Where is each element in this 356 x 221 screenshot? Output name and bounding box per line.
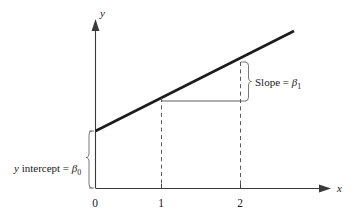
- intercept-label: y intercept = β0: [13, 162, 81, 177]
- slope-label-subscript: 1: [297, 82, 301, 91]
- x-axis-ticks: 0 1 2: [92, 184, 243, 209]
- x-axis-label: x: [336, 182, 342, 194]
- y-axis-label: y: [99, 7, 105, 19]
- intercept-brace-path: [86, 131, 92, 188]
- intercept-label-middle: intercept =: [19, 162, 72, 174]
- slope-label: Slope = β1: [255, 76, 301, 91]
- x-axis: x: [96, 182, 343, 194]
- tick-label-0: 0: [92, 197, 98, 209]
- intercept-label-subscript: 0: [77, 168, 81, 177]
- y-axis: y: [92, 7, 105, 188]
- slope-brace-path: [246, 62, 252, 101]
- figure-canvas: y x 0 1 2 Slope = β1: [0, 0, 356, 221]
- intercept-brace: [86, 131, 94, 188]
- x-axis-arrow-icon: [319, 185, 331, 193]
- regression-figure: y x 0 1 2 Slope = β1: [0, 0, 356, 221]
- slope-label-prefix: Slope =: [255, 76, 292, 88]
- y-axis-arrow-icon: [92, 19, 100, 31]
- tick-label-1: 1: [158, 197, 164, 209]
- tick-label-2: 2: [237, 197, 243, 209]
- slope-brace: [241, 62, 252, 101]
